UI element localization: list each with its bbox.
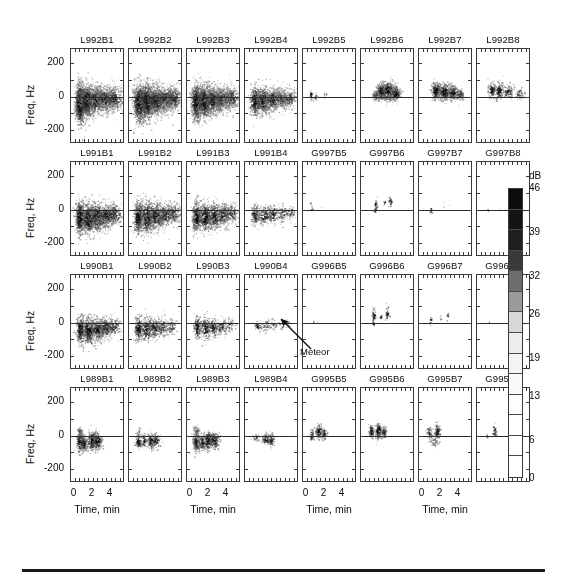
y-tick-label: -200 (26, 462, 64, 473)
x-tick (450, 162, 451, 165)
y-tick (477, 226, 480, 227)
spectrogram-panel-l991b3[interactable] (186, 161, 240, 256)
spectrogram-panel-g997b6[interactable] (360, 161, 414, 256)
zero-frequency-line (361, 436, 413, 437)
x-tick (338, 139, 339, 142)
spectrogram-panel-l992b6[interactable] (360, 48, 414, 143)
spectrogram-panel-l992b3[interactable] (186, 48, 240, 143)
y-tick (120, 193, 123, 194)
x-tick (294, 478, 295, 481)
x-tick (111, 478, 112, 481)
x-tick (485, 478, 486, 481)
y-tick-label: -200 (26, 236, 64, 247)
x-tick (494, 365, 495, 368)
y-tick (129, 176, 132, 177)
x-tick (84, 478, 85, 481)
x-tick (410, 252, 411, 255)
x-tick (521, 478, 522, 481)
x-tick (222, 252, 223, 255)
y-tick (526, 130, 529, 131)
zero-frequency-line (419, 323, 471, 324)
spectrogram-panel-g997b5[interactable] (302, 161, 356, 256)
x-tick (325, 388, 326, 391)
panel-plot-area (187, 388, 240, 482)
x-tick (468, 388, 469, 391)
y-tick (178, 419, 181, 420)
x-tick (102, 365, 103, 368)
x-tick (133, 162, 134, 165)
x-tick (267, 252, 268, 255)
x-tick (423, 139, 424, 142)
zero-frequency-line (419, 97, 471, 98)
panel-title-g997b7: G997B7 (418, 147, 472, 158)
x-tick (146, 139, 147, 142)
x-tick (325, 139, 326, 142)
panel-plot-area (187, 49, 240, 143)
spectrogram-panel-g995b5[interactable] (302, 387, 356, 482)
spectrogram-panel-g996b7[interactable] (418, 274, 472, 369)
spectrogram-panel-l992b8[interactable] (476, 48, 530, 143)
x-tick (392, 275, 393, 278)
spectrogram-panel-l990b4[interactable] (244, 274, 298, 369)
x-tick (222, 478, 223, 481)
x-tick (369, 365, 370, 368)
spectrogram-panel-l992b4[interactable] (244, 48, 298, 143)
spectrogram-panel-l991b4[interactable] (244, 161, 298, 256)
y-tick (468, 452, 471, 453)
x-tick (334, 162, 335, 165)
y-tick (187, 356, 190, 357)
zero-frequency-line (187, 97, 239, 98)
x-tick (115, 275, 116, 278)
x-tick (258, 478, 259, 481)
y-tick (120, 289, 123, 290)
spectrogram-panel-l989b4[interactable] (244, 387, 298, 482)
x-tick (334, 388, 335, 391)
x-tick (280, 252, 281, 255)
x-tick (271, 162, 272, 165)
spectrogram-panel-g995b6[interactable] (360, 387, 414, 482)
y-tick (410, 339, 413, 340)
x-tick (151, 478, 152, 481)
x-tick (231, 275, 232, 278)
colorbar-tick-label: 32 (529, 270, 540, 281)
x-tick (267, 478, 268, 481)
y-tick (468, 469, 471, 470)
x-tick (204, 478, 205, 481)
y-tick (129, 323, 132, 324)
y-tick (526, 306, 529, 307)
spectrogram-panel-l990b3[interactable] (186, 274, 240, 369)
y-tick (303, 419, 306, 420)
spectrogram-panel-l990b1[interactable] (70, 274, 124, 369)
x-tick (405, 252, 406, 255)
meteor-annotation-label: Meteor (300, 346, 330, 357)
spectrogram-panel-l992b7[interactable] (418, 48, 472, 143)
y-tick (526, 469, 529, 470)
x-tick (120, 162, 121, 165)
panel-title-l992b7: L992B7 (418, 34, 472, 45)
spectrogram-panel-l989b1[interactable] (70, 387, 124, 482)
spectrogram-panel-g996b6[interactable] (360, 274, 414, 369)
x-tick (481, 275, 482, 278)
spectrogram-panel-l992b1[interactable] (70, 48, 124, 143)
spectrogram-panel-l989b3[interactable] (186, 387, 240, 482)
spectrogram-panel-l991b1[interactable] (70, 161, 124, 256)
x-tick (441, 162, 442, 165)
spectrogram-panel-l992b2[interactable] (128, 48, 182, 143)
spectrogram-panel-g997b7[interactable] (418, 161, 472, 256)
y-tick (120, 113, 123, 114)
x-tick (494, 162, 495, 165)
spectrogram-panel-g995b7[interactable] (418, 387, 472, 482)
spectrogram-panel-l992b5[interactable] (302, 48, 356, 143)
x-tick (427, 365, 428, 368)
x-tick (396, 365, 397, 368)
spectrogram-panel-l990b2[interactable] (128, 274, 182, 369)
spectrogram-figure: Freq, Hz Freq, Hz Freq, Hz Freq, Hz L992… (0, 0, 566, 578)
y-tick (245, 356, 248, 357)
y-tick (187, 339, 190, 340)
x-tick (383, 49, 384, 52)
spectrogram-panel-l989b2[interactable] (128, 387, 182, 482)
y-tick (419, 289, 422, 290)
y-tick (468, 436, 471, 437)
x-tick (106, 139, 107, 142)
spectrogram-panel-l991b2[interactable] (128, 161, 182, 256)
